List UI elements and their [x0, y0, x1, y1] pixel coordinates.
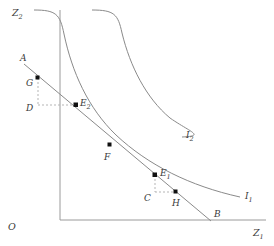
- indifference-curves-group: [34, 10, 240, 197]
- point-label-e1: E1: [160, 169, 171, 180]
- point-marker-f: [108, 143, 112, 147]
- point-marker-g: [36, 76, 40, 80]
- curve-label-i1: I1: [245, 192, 253, 203]
- point-label-c: C: [144, 194, 151, 203]
- point-label-b: B: [214, 210, 221, 219]
- budget-line-group: [24, 64, 211, 221]
- origin-label: O: [8, 222, 16, 232]
- indifference-curve-i2: [92, 10, 194, 137]
- point-markers-group: [36, 76, 178, 194]
- indifference-curve-figure: Z2 Z1 O I2 I1 A G D E2 F E1 C H B: [0, 0, 274, 246]
- point-label-h: H: [172, 199, 180, 208]
- point-label-f: F: [104, 153, 110, 162]
- point-label-d: D: [26, 104, 33, 113]
- point-marker-h: [174, 190, 178, 194]
- point-marker-e1: [153, 173, 158, 178]
- axes-group: [60, 10, 266, 220]
- y-axis-label: Z2: [12, 8, 23, 20]
- indifference-curve-i1: [34, 10, 240, 197]
- curve-label-i2: I2: [186, 131, 194, 142]
- point-label-a: A: [20, 54, 27, 63]
- point-label-g: G: [26, 79, 33, 88]
- point-label-e2: E2: [80, 99, 91, 110]
- diagram-canvas: [0, 0, 274, 246]
- x-axis-label: Z1: [253, 228, 264, 240]
- point-marker-e2: [74, 103, 79, 108]
- budget-line-ab: [24, 64, 211, 221]
